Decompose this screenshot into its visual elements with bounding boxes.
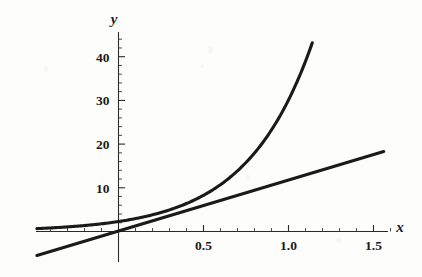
plot-figure: 0.51.01.5 10203040 y x: [0, 0, 422, 277]
scan-noise-speck: [336, 238, 342, 243]
scan-noise-speck: [246, 175, 251, 180]
scan-noise-speck: [208, 46, 213, 54]
y-tick-label: 40: [96, 50, 110, 65]
scan-noise-speck: [200, 64, 204, 68]
y-axis-ticks: [119, 39, 126, 223]
y-tick-label: 10: [96, 181, 110, 196]
x-tick-label: 1.5: [365, 238, 382, 253]
x-axis-tick-labels: 0.51.01.5: [195, 238, 382, 253]
exponential-curve-series: [37, 43, 312, 229]
x-axis-label: x: [395, 219, 404, 235]
y-tick-label: 20: [96, 137, 110, 152]
x-tick-label: 0.5: [195, 238, 212, 253]
scan-noise-speck: [44, 66, 48, 72]
y-axis-label: y: [109, 11, 118, 27]
plot-canvas: 0.51.01.5 10203040 y x: [0, 0, 422, 277]
y-axis-tick-labels: 10203040: [96, 50, 110, 196]
x-axis-ticks: [51, 225, 391, 232]
y-tick-label: 30: [96, 93, 110, 108]
x-tick-label: 1.0: [280, 238, 297, 253]
